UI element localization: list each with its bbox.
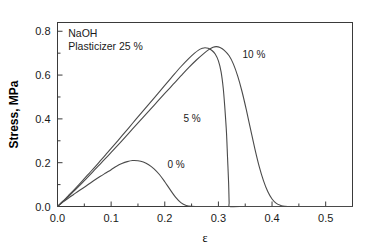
- y-tick-label: 0.6: [35, 69, 50, 81]
- curve-5: [58, 48, 353, 207]
- x-tick-label: 0.5: [318, 212, 333, 224]
- y-tick-label: 0.4: [35, 113, 50, 125]
- x-tick-label: 0.4: [264, 212, 279, 224]
- x-tick-label: 0.3: [211, 212, 226, 224]
- curves-group: [58, 47, 353, 207]
- x-tick-label: 0.1: [103, 212, 118, 224]
- x-tick-label: 0.0: [50, 212, 65, 224]
- y-tick-label: 0.0: [35, 201, 50, 213]
- x-axis-title: ε: [202, 231, 207, 245]
- annotation-material: NaOH: [68, 27, 97, 39]
- curve-10: [58, 47, 353, 207]
- series-label-0: 0 %: [167, 159, 184, 170]
- y-tick-label: 0.2: [35, 157, 50, 169]
- curve-0: [58, 160, 353, 206]
- series-label-5: 5 %: [184, 113, 201, 124]
- labels-group: 0.00.10.20.30.40.50.00.20.40.60.80 %5 %1…: [7, 25, 333, 244]
- stress-strain-chart: 0.00.10.20.30.40.50.00.20.40.60.80 %5 %1…: [0, 0, 366, 251]
- x-tick-label: 0.2: [157, 212, 172, 224]
- figure-container: 0.00.10.20.30.40.50.00.20.40.60.80 %5 %1…: [0, 0, 366, 251]
- y-axis-title: Stress, MPa: [7, 80, 21, 148]
- y-tick-label: 0.8: [35, 25, 50, 37]
- series-label-10: 10 %: [243, 49, 266, 60]
- annotation-plasticizer: Plasticizer 25 %: [68, 40, 143, 52]
